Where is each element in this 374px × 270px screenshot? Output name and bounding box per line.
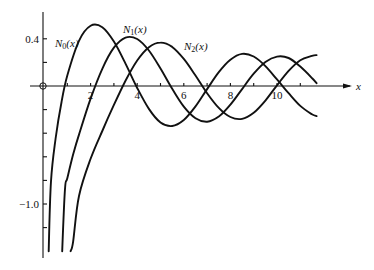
x-tick-label: 6 bbox=[181, 89, 187, 101]
x-axis-arrow-icon bbox=[343, 84, 352, 89]
curve-n2x bbox=[71, 43, 317, 252]
curve-label-1: N1(x) bbox=[122, 23, 147, 37]
y-tick-label: −1.0 bbox=[19, 198, 39, 210]
labels: N0(x)N1(x)N2(x) bbox=[54, 23, 208, 54]
x-axis-label: x bbox=[355, 80, 361, 92]
x-tick-label: 8 bbox=[228, 89, 234, 101]
curve-label-2: N2(x) bbox=[183, 40, 208, 54]
curve-label-0: N0(x) bbox=[54, 37, 79, 51]
curves bbox=[49, 25, 317, 252]
curve-n1x bbox=[62, 37, 316, 251]
chart-plot: 2468100.4−1.0x N0(x)N1(x)N2(x) bbox=[0, 0, 374, 270]
y-tick-label: 0.4 bbox=[25, 33, 39, 45]
